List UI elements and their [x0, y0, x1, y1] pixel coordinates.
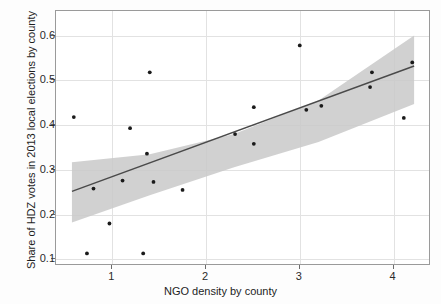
data-point [128, 126, 132, 130]
y-tick-label-2: 0.3 [40, 163, 55, 175]
data-point [85, 252, 89, 256]
x-axis-label: NGO density by county [0, 285, 441, 297]
y-tick-label-3: 0.4 [40, 118, 55, 130]
data-point [252, 142, 256, 146]
y-tick-label-0: 0.1 [40, 252, 55, 264]
data-point [402, 116, 406, 120]
data-point [370, 70, 374, 74]
x-tick-mark-1 [205, 265, 206, 269]
data-point [410, 61, 414, 65]
x-tick-label-3: 4 [389, 270, 395, 282]
data-point [252, 105, 256, 109]
regression-line [72, 66, 414, 191]
data-point [319, 104, 323, 108]
plot-area [55, 10, 430, 265]
x-tick-mark-3 [393, 265, 394, 269]
y-tick-label-1: 0.2 [40, 208, 55, 220]
data-point [233, 132, 237, 136]
x-tick-label-1: 2 [202, 270, 208, 282]
x-tick-mark-0 [111, 265, 112, 269]
y-tick-label-5: 0.6 [40, 29, 55, 41]
data-point [72, 115, 76, 119]
data-point [368, 85, 372, 89]
scatter-plot-svg [56, 11, 430, 265]
data-point [121, 179, 125, 183]
chart-figure: 0.10.20.30.40.50.6 1234 NGO density by c… [0, 0, 441, 304]
data-point [141, 252, 145, 256]
x-tick-label-0: 1 [108, 270, 114, 282]
data-point [108, 222, 112, 226]
x-tick-label-2: 3 [296, 270, 302, 282]
data-point [145, 152, 149, 156]
data-point [152, 180, 156, 184]
data-point [304, 108, 308, 112]
data-point [181, 188, 185, 192]
x-tick-mark-2 [299, 265, 300, 269]
y-axis-label: Share of HDZ votes in 2013 local electio… [25, 19, 37, 269]
data-point [148, 70, 152, 74]
y-tick-label-4: 0.5 [40, 73, 55, 85]
data-point [92, 187, 96, 191]
data-point [298, 44, 302, 48]
